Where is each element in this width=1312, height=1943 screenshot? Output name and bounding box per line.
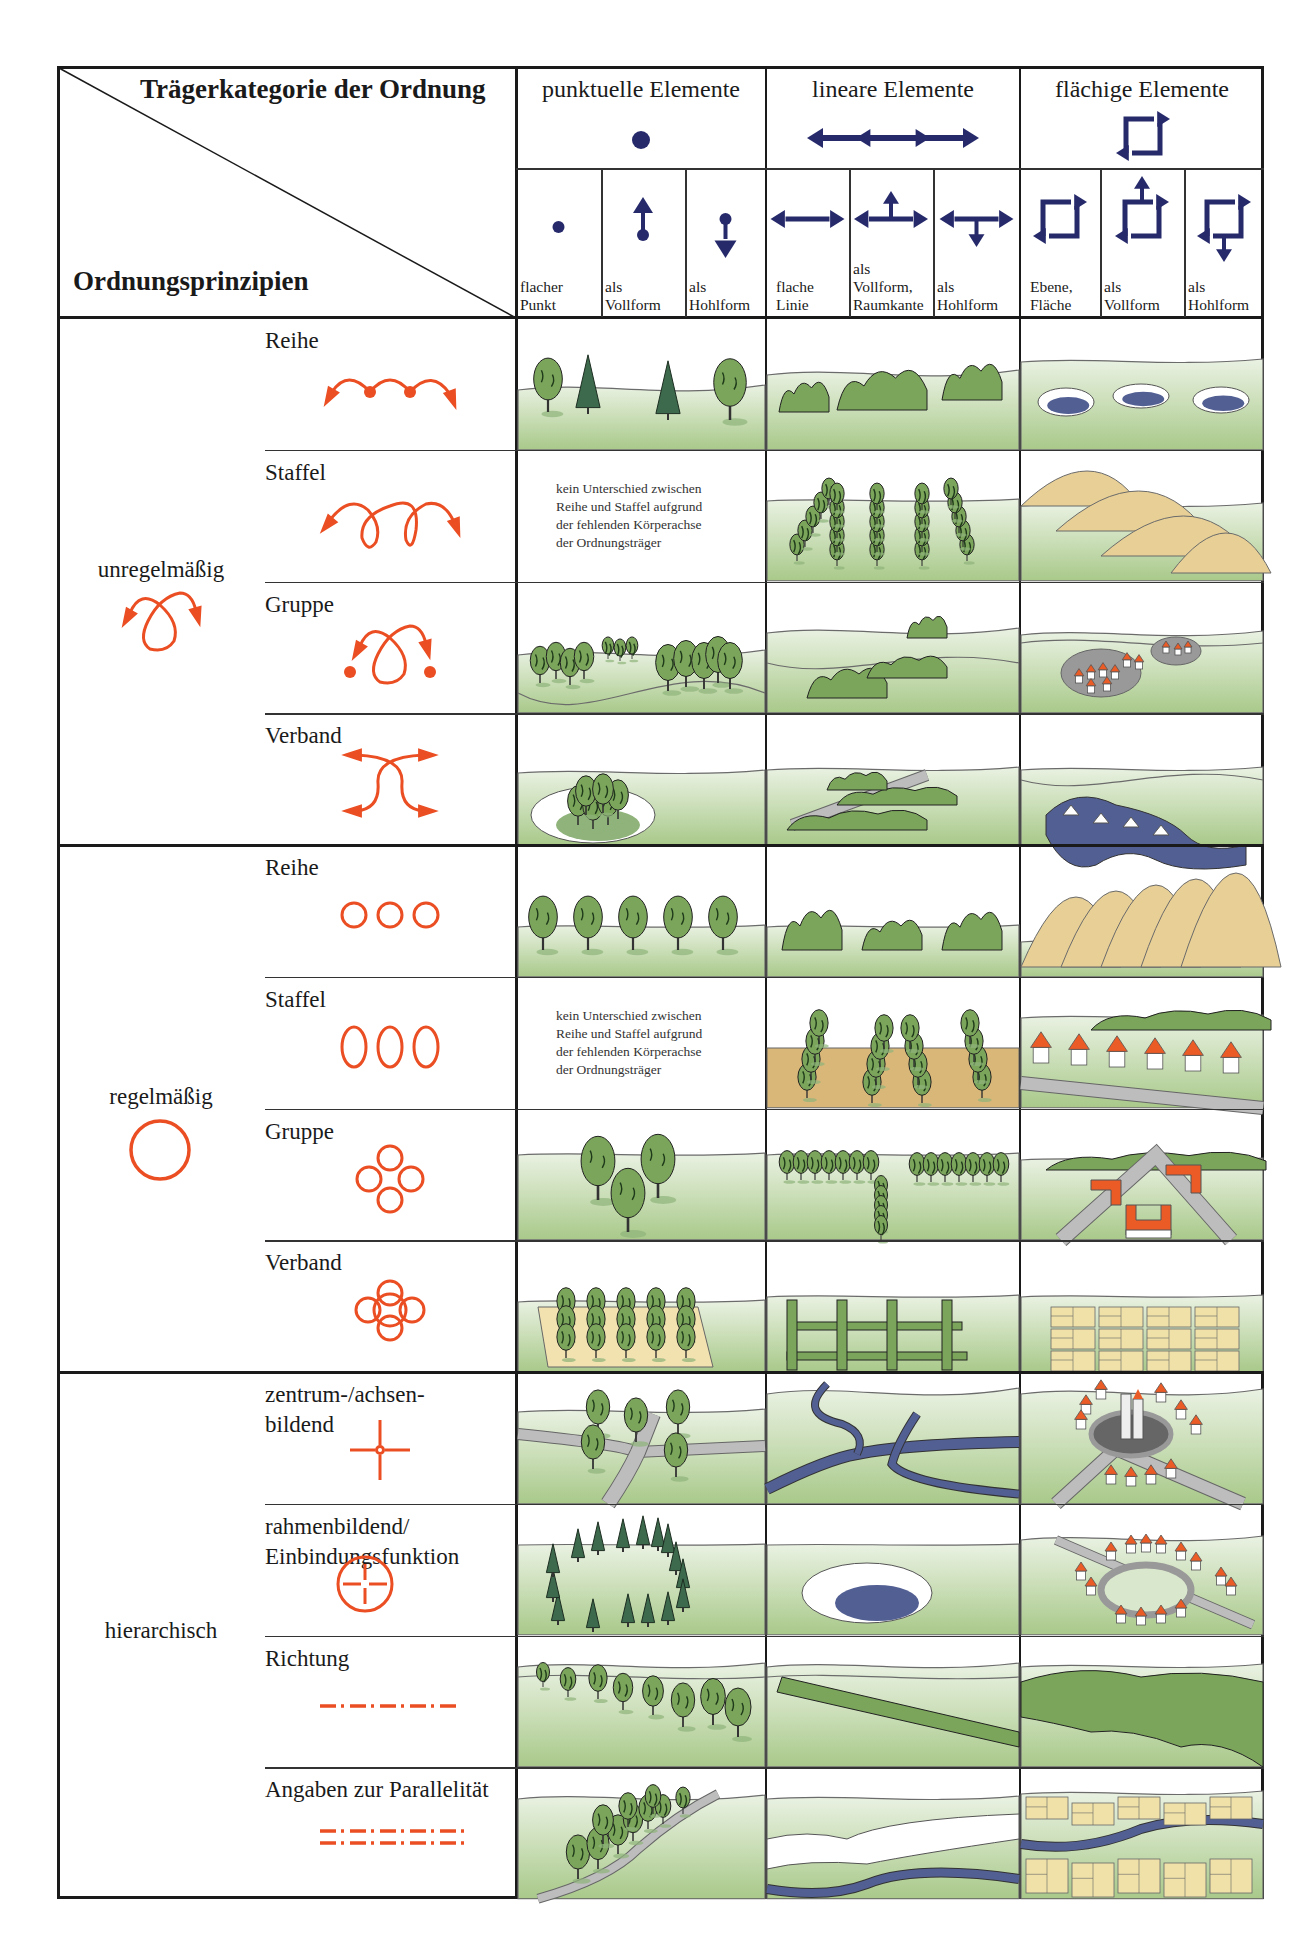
divider-header-sub <box>516 168 1264 170</box>
flat-point-icon <box>516 175 601 270</box>
subcolumn-label-line: als <box>1104 278 1160 296</box>
irregular-group-icon <box>275 612 505 712</box>
shrub-mark <box>1091 1010 1271 1030</box>
row-divider <box>265 582 516 584</box>
note-line: der Ordnungsträger <box>556 1061 702 1079</box>
row-divider <box>265 1636 516 1638</box>
subcolumn-label: flacherPunkt <box>520 278 563 314</box>
illustration-conifer-ring <box>518 1505 765 1635</box>
irregular-staggered-icon <box>275 480 505 580</box>
house-mark <box>1155 1535 1167 1553</box>
subcolumn-label-line: flacher <box>520 278 563 296</box>
illustration-courtyard-buildings <box>1021 1110 1263 1240</box>
shrub-mark <box>907 616 947 638</box>
irregular-row-icon <box>275 348 505 448</box>
subcolumn-label-line: als <box>937 278 998 296</box>
shrub-mark <box>862 920 922 950</box>
shrub-mark <box>782 910 842 950</box>
conifer-mark <box>616 1519 629 1552</box>
subcolumn-label: alsHohlform <box>689 278 750 314</box>
subcolumn-label-line: Hohlform <box>689 296 750 314</box>
double-arrow-up-icon <box>849 175 933 270</box>
subcolumn-label: alsVollform <box>605 278 661 314</box>
illustration-tree-lines-staggered <box>767 451 1019 581</box>
dash-dot-line-icon <box>275 1666 505 1766</box>
illustration-field-grid <box>1021 1242 1263 1372</box>
illustration-orchard-grid <box>518 1242 765 1372</box>
subcolumn-label-line: flache <box>776 278 814 296</box>
illustration-terrace-along-river <box>767 1769 1019 1899</box>
square-arrows-icon <box>1020 175 1100 270</box>
shrub-mark <box>942 364 1002 400</box>
double-arrow-icon <box>766 175 849 270</box>
three-circles-icon <box>275 875 505 975</box>
illustration-shrubs-regular <box>767 847 1019 977</box>
illustration-forest-edge <box>1021 1637 1263 1767</box>
illustration-fields-along-river <box>1021 1769 1263 1899</box>
illustration-three-trees-group <box>518 1110 765 1240</box>
illustration-sand-dunes-staggered <box>1021 451 1263 581</box>
double-arrow-icon <box>766 110 1020 168</box>
row-divider <box>265 1767 516 1769</box>
subcolumn-label: flacheLinie <box>776 278 814 314</box>
conifer-mark <box>576 354 600 413</box>
category-title: punktuelle Elemente <box>516 76 766 103</box>
row-divider <box>265 1240 516 1242</box>
illustration-hedge-groups <box>767 583 1019 713</box>
subcolumn-label-line: Hohlform <box>1188 296 1249 314</box>
category-title: lineare Elemente <box>766 76 1020 103</box>
illustration-tree-clump-in-hollow <box>518 715 765 845</box>
illustration-poplar-rows-on-field <box>767 978 1019 1108</box>
point-up-arrow-icon <box>601 175 685 270</box>
row-label-line: rahmenbildend/ <box>265 1512 459 1542</box>
house-mark <box>1125 1535 1137 1553</box>
house-mark <box>1155 1382 1168 1401</box>
illustration-trees-at-crossroads <box>518 1374 765 1504</box>
illustration-shrubs-clusters <box>767 320 1019 450</box>
illustration-village-clusters <box>1021 583 1263 713</box>
note-line: kein Unterschied zwischen <box>556 1007 702 1025</box>
square-arrows-up-icon <box>1100 175 1184 270</box>
loop-arrows-icon <box>100 587 220 667</box>
row-divider <box>265 450 516 452</box>
subcolumn-label-line: Punkt <box>520 296 563 314</box>
row-label-line: zentrum-/achsen- <box>265 1380 425 1410</box>
note-line: der fehlenden Körperachse <box>556 516 702 534</box>
illustration-village-central-tower <box>1021 1374 1263 1504</box>
illustration-village-ring-road <box>1021 1505 1263 1635</box>
subcolumn-label-line: Ebene, <box>1030 278 1073 296</box>
note-line: der Ordnungsträger <box>556 534 702 552</box>
subcolumn-label-line: Vollform, <box>853 278 924 296</box>
category-title: flächige Elemente <box>1020 76 1264 103</box>
illustration-avenue-along-road <box>518 1769 765 1899</box>
dot-icon <box>516 110 766 168</box>
row-divider <box>265 713 516 715</box>
illustration-tree-rows-T <box>767 1110 1019 1240</box>
subcolumn-label-line: Hohlform <box>937 296 998 314</box>
note-line: kein Unterschied zwischen <box>556 480 702 498</box>
illustration-trees-row-regular <box>518 847 765 977</box>
note-line: Reihe und Staffel aufgrund <box>556 498 702 516</box>
subcolumn-label: Ebene,Fläche <box>1030 278 1073 314</box>
subcolumn-label: alsVollform <box>1104 278 1160 314</box>
row-divider <box>265 977 516 979</box>
three-ovals-icon <box>275 1007 505 1107</box>
illustration-hedge-diagonal <box>767 1637 1019 1767</box>
illustration-hedge-grid <box>767 1242 1019 1372</box>
square-arrows-down-icon <box>1184 175 1264 270</box>
hollow-mark <box>1193 387 1249 413</box>
row-divider <box>265 1109 516 1111</box>
subcolumn-label-line: als <box>1188 278 1249 296</box>
illustration-lake-in-hollow <box>767 1505 1019 1635</box>
subcolumn-label-line: Linie <box>776 296 814 314</box>
header-order-principles: Ordnungsprinzipien <box>73 266 309 297</box>
subcolumn-label-line: als <box>853 260 924 278</box>
illustration-houses-row <box>1021 978 1263 1108</box>
illustration-lake-with-islands <box>1021 715 1263 845</box>
double-arrow-down-icon <box>933 175 1020 270</box>
subcolumn-label-line: Fläche <box>1030 296 1073 314</box>
illustration-river-confluence <box>767 1374 1019 1504</box>
group-label: unregelmäßig <box>57 557 265 583</box>
illustration-hedge-network <box>767 715 1019 845</box>
group-label: hierarchisch <box>57 1618 265 1644</box>
